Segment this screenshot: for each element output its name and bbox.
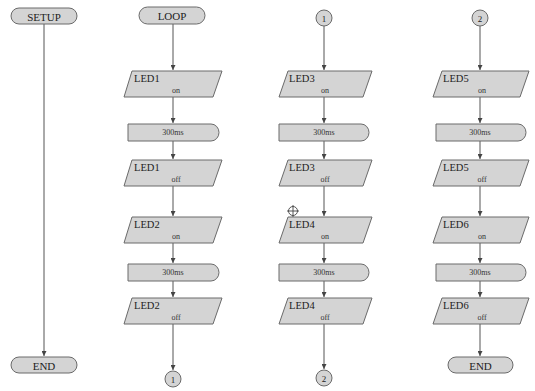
io-block-led3-off[interactable]: LED3 off: [279, 160, 372, 186]
io-device-label: LED5: [443, 73, 469, 84]
io-state-label: off: [320, 313, 330, 322]
connector-out-1[interactable]: 1: [165, 371, 181, 387]
terminal-label: END: [469, 360, 492, 372]
io-state-label: on: [321, 86, 329, 95]
connector-label: 2: [322, 374, 327, 384]
terminal-label: SETUP: [27, 11, 61, 23]
io-block-led5-off[interactable]: LED5 off: [433, 160, 529, 186]
io-block-led6-on[interactable]: LED6 on: [433, 217, 529, 243]
connector-out-2[interactable]: 2: [316, 370, 332, 386]
loop-end-terminal[interactable]: END: [448, 357, 513, 373]
delay-label: 300ms: [162, 128, 183, 137]
io-state-label: on: [478, 86, 486, 95]
io-device-label: LED3: [289, 162, 315, 173]
io-state-label: off: [171, 175, 181, 184]
io-device-label: LED6: [443, 300, 469, 311]
delay-label: 300ms: [162, 268, 183, 277]
io-device-label: LED2: [134, 300, 160, 311]
io-state-label: on: [321, 232, 329, 241]
part2-column: 2 LED5 on 300ms LED5 off LED6 on 300ms L…: [433, 10, 529, 373]
connector-label: 1: [171, 375, 176, 385]
io-device-label: LED1: [134, 162, 160, 173]
io-state-label: off: [171, 313, 181, 322]
io-device-label: LED4: [289, 219, 315, 230]
io-device-label: LED2: [134, 219, 160, 230]
io-block-led2-on[interactable]: LED2 on: [124, 217, 222, 243]
delay-label: 300ms: [313, 268, 334, 277]
io-device-label: LED3: [289, 73, 315, 84]
io-state-label: on: [172, 86, 180, 95]
io-device-label: LED4: [289, 300, 315, 311]
connector-in-2[interactable]: 2: [472, 10, 488, 26]
delay-block[interactable]: 300ms: [279, 264, 369, 281]
io-state-label: on: [478, 232, 486, 241]
delay-block[interactable]: 300ms: [279, 124, 369, 141]
io-block-led4-on[interactable]: LED4 on: [279, 217, 372, 243]
io-block-led1-off[interactable]: LED1 off: [124, 160, 222, 186]
flowchart-canvas: SETUP END LOOP LED1 on 300ms LED: [0, 0, 535, 391]
io-device-label: LED5: [443, 162, 469, 173]
delay-block[interactable]: 300ms: [128, 124, 219, 141]
crosshair-icon: [287, 205, 299, 217]
io-block-led3-on[interactable]: LED3 on: [279, 71, 372, 97]
io-state-label: on: [172, 232, 180, 241]
io-state-label: off: [320, 175, 330, 184]
terminal-label: LOOP: [158, 10, 187, 22]
io-block-led6-off[interactable]: LED6 off: [433, 298, 529, 324]
delay-label: 300ms: [313, 128, 334, 137]
io-block-led5-on[interactable]: LED5 on: [433, 71, 529, 97]
io-block-led4-off[interactable]: LED4 off: [279, 298, 372, 324]
io-device-label: LED6: [443, 219, 469, 230]
io-block-led1-on[interactable]: LED1 on: [124, 71, 222, 97]
delay-label: 300ms: [469, 128, 490, 137]
loop-terminal[interactable]: LOOP: [139, 7, 205, 24]
delay-block[interactable]: 300ms: [436, 264, 526, 281]
io-state-label: off: [477, 313, 487, 322]
connector-label: 1: [322, 14, 327, 24]
connector-in-1[interactable]: 1: [316, 10, 332, 26]
loop-column: LOOP LED1 on 300ms LED1 off LED2 on 300m…: [124, 7, 222, 387]
delay-label: 300ms: [469, 268, 490, 277]
io-state-label: off: [477, 175, 487, 184]
connector-label: 2: [478, 14, 483, 24]
io-device-label: LED1: [134, 73, 160, 84]
io-block-led2-off[interactable]: LED2 off: [124, 298, 222, 324]
delay-block[interactable]: 300ms: [128, 264, 219, 281]
setup-terminal[interactable]: SETUP: [11, 8, 77, 24]
setup-column: SETUP END: [11, 8, 77, 373]
part1-column: 1 LED3 on 300ms LED3 off LED4 on 300ms L…: [279, 10, 372, 386]
delay-block[interactable]: 300ms: [436, 124, 526, 141]
setup-end-terminal[interactable]: END: [11, 357, 77, 373]
terminal-label: END: [33, 360, 56, 372]
